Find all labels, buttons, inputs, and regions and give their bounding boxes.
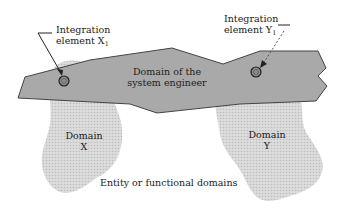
label-line: Domain — [245, 129, 289, 140]
subscript: 1 — [272, 29, 276, 37]
domain-y-label: Domain Y — [245, 129, 289, 151]
label-line: Y — [245, 140, 289, 151]
label-line: Integration — [56, 24, 110, 35]
system-engineer-domain-label: Domain of the system engineer — [112, 66, 222, 88]
label-line: element X — [56, 35, 105, 46]
subscript: 1 — [105, 40, 109, 48]
integration-element-y1-node — [251, 67, 261, 77]
label-line: X — [62, 141, 106, 152]
label-line: system engineer — [112, 77, 222, 88]
domain-x-label: Domain X — [62, 130, 106, 152]
label-line: Domain of the — [112, 66, 222, 77]
caption: Entity or functional domains — [100, 177, 237, 188]
label-line: Integration — [224, 13, 278, 24]
integration-element-x1-node — [59, 76, 69, 86]
integration-element-y1-label: Integration element Y1 — [224, 13, 278, 39]
label-line: Domain — [62, 130, 106, 141]
label-line: element Y — [224, 24, 272, 35]
integration-element-x1-label: Integration element X1 — [56, 24, 110, 50]
